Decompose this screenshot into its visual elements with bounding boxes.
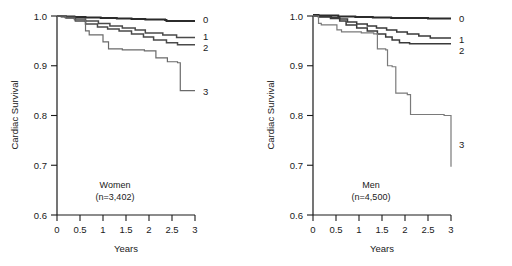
figure-kaplan-meier-survival: 0.6 0.7 0.8 0.9 1.0 0 0.5 1 1.5 2 2.5 3 … <box>0 0 512 266</box>
x-tick-label: 3 <box>448 224 453 235</box>
panel-title-women: Women <box>100 180 131 190</box>
y-tick-label: 0.6 <box>290 210 303 221</box>
curve-labels-men: 0 1 2 3 <box>459 13 464 150</box>
x-tick-label: 1 <box>100 224 105 235</box>
curve-label-0: 0 <box>203 14 208 25</box>
x-tick-labels-women: 0 0.5 1 1.5 2 2.5 3 <box>54 224 197 235</box>
y-tick-label: 0.8 <box>34 110 47 121</box>
x-ticks-women <box>57 215 195 221</box>
x-tick-label: 2.5 <box>165 224 178 235</box>
x-tick-label: 2 <box>402 224 407 235</box>
x-tick-labels-men: 0 0.5 1 1.5 2 2.5 3 <box>310 224 453 235</box>
curve-labels-women: 0 1 2 3 <box>203 14 208 97</box>
x-tick-label: 1 <box>356 224 361 235</box>
curves-women <box>57 16 195 91</box>
y-tick-label: 1.0 <box>290 11 303 22</box>
panel-women: 0.6 0.7 0.8 0.9 1.0 0 0.5 1 1.5 2 2.5 3 … <box>0 0 256 266</box>
x-tick-label: 0.5 <box>329 224 342 235</box>
y-ticks-men <box>307 16 313 215</box>
y-tick-label: 0.8 <box>290 110 303 121</box>
y-tick-labels-women: 0.6 0.7 0.8 0.9 1.0 <box>34 11 47 221</box>
y-ticks-women <box>51 16 57 215</box>
panel-men: 0.6 0.7 0.8 0.9 1.0 0 0.5 1 1.5 2 2.5 3 … <box>256 0 512 266</box>
x-tick-label: 0.5 <box>73 224 86 235</box>
panel-men-svg: 0.6 0.7 0.8 0.9 1.0 0 0.5 1 1.5 2 2.5 3 … <box>256 0 512 266</box>
y-tick-label: 0.6 <box>34 210 47 221</box>
x-tick-label: 1.5 <box>375 224 388 235</box>
curve-label-3: 3 <box>459 139 464 150</box>
curve-label-1: 1 <box>459 34 464 45</box>
curve-label-2: 2 <box>459 45 464 56</box>
curve-label-1: 1 <box>203 31 208 42</box>
curves-men <box>313 15 451 167</box>
y-tick-label: 1.0 <box>34 11 47 22</box>
curve-label-2: 2 <box>203 42 208 53</box>
x-tick-label: 0 <box>54 224 59 235</box>
y-tick-label: 0.7 <box>290 160 303 171</box>
x-axis-title-men: Years <box>370 243 394 254</box>
x-tick-label: 1.5 <box>119 224 132 235</box>
y-axis-title-men: Cardiac Survival <box>265 80 276 149</box>
x-tick-label: 2.5 <box>421 224 434 235</box>
curve-label-0: 0 <box>459 13 464 24</box>
panel-subtitle-women: (n=3,402) <box>96 192 135 202</box>
panel-title-men: Men <box>362 180 380 190</box>
panel-women-svg: 0.6 0.7 0.8 0.9 1.0 0 0.5 1 1.5 2 2.5 3 … <box>0 0 256 266</box>
x-axis-title-women: Years <box>114 243 138 254</box>
y-tick-label: 0.9 <box>290 60 303 71</box>
y-tick-label: 0.9 <box>34 60 47 71</box>
curve-label-3: 3 <box>203 86 208 97</box>
x-tick-label: 2 <box>146 224 151 235</box>
y-tick-labels-men: 0.6 0.7 0.8 0.9 1.0 <box>290 11 303 221</box>
axes-men <box>307 16 451 221</box>
x-tick-label: 3 <box>192 224 197 235</box>
y-tick-label: 0.7 <box>34 160 47 171</box>
x-ticks-men <box>313 215 451 221</box>
axes-women <box>51 16 195 221</box>
panel-subtitle-men: (n=4,500) <box>352 192 391 202</box>
y-axis-title-women: Cardiac Survival <box>9 80 20 149</box>
x-tick-label: 0 <box>310 224 315 235</box>
survival-curve-2-men <box>313 16 451 44</box>
